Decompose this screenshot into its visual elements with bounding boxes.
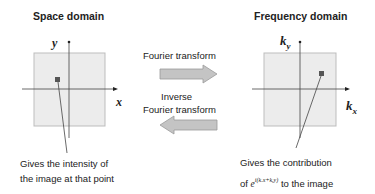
space-y-axis-arrowhead — [68, 41, 71, 44]
caption-to-the-image: to the image — [281, 178, 333, 189]
ky-subscript: y — [287, 41, 291, 51]
kx-subscript: x — [353, 106, 358, 116]
caption-exponent: i(kₓx+kᵧy) — [255, 177, 278, 183]
space-domain-caption: Gives the intensity of the image at that… — [20, 156, 114, 186]
frequency-point-marker — [319, 71, 324, 76]
space-caption-line2: the image at that point — [20, 171, 114, 186]
space-y-axis-label: y — [52, 36, 57, 51]
caption-of: of — [240, 178, 248, 189]
forward-transform-label: Fourier transform — [143, 50, 216, 61]
kx-base: k — [346, 98, 353, 113]
frequency-caption-line2: of ei(kₓx+kᵧy) to the image — [240, 173, 333, 192]
space-domain-title: Space domain — [33, 10, 104, 22]
frequency-kx-axis-arrowhead — [345, 87, 350, 91]
frequency-kx-axis-label: kx — [346, 98, 357, 114]
frequency-ky-axis-label: ky — [280, 33, 291, 49]
frequency-domain-caption: Gives the contribution of ei(kₓx+kᵧy) to… — [240, 155, 333, 192]
inverse-transform-label-line1: Inverse — [161, 91, 192, 102]
forward-transform-arrow — [160, 65, 217, 83]
space-x-axis-arrowhead — [113, 87, 118, 91]
ky-base: k — [280, 33, 287, 48]
frequency-domain-title: Frequency domain — [254, 10, 347, 22]
inverse-transform-arrow — [160, 116, 217, 134]
space-point-marker — [55, 77, 60, 82]
space-caption-line1: Gives the intensity of — [20, 156, 114, 171]
frequency-caption-line1: Gives the contribution — [240, 155, 333, 170]
space-x-axis-label: x — [116, 95, 122, 110]
space-domain-image-square — [34, 53, 105, 126]
frequency-ky-axis-arrowhead — [299, 41, 302, 44]
inverse-transform-label-line2: Fourier transform — [143, 104, 216, 115]
